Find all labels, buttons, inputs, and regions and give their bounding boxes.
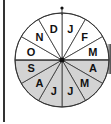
month-label: M [88, 46, 97, 58]
month-label: A [35, 77, 43, 89]
month-label: A [89, 62, 97, 74]
month-label: S [27, 62, 34, 74]
month-label: D [50, 23, 58, 35]
month-label: J [67, 23, 73, 35]
month-label: O [27, 46, 36, 58]
month-label: J [67, 85, 73, 97]
center-dot-icon [60, 58, 65, 63]
month-label: J [51, 85, 57, 97]
month-label: M [80, 77, 89, 89]
top-marker-dot-icon [60, 6, 63, 9]
month-wheel: JFMAMJJASOND [0, 0, 111, 124]
month-label: N [35, 31, 43, 43]
month-label: F [81, 31, 88, 43]
